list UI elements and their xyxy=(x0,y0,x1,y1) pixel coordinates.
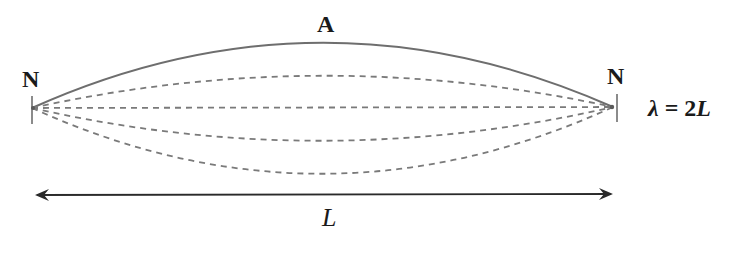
wavelength-formula: λ = 2L xyxy=(648,96,711,120)
lambda-symbol: λ xyxy=(648,95,659,121)
wavelength-variable: L xyxy=(696,95,711,121)
dashed-wave-curve-middle xyxy=(32,107,613,108)
dashed-wave-curve-bottom xyxy=(32,107,613,174)
solid-wave-curve xyxy=(32,43,613,108)
standing-wave-diagram: A N N λ = 2L L xyxy=(0,0,742,255)
left-node-dot xyxy=(31,106,35,110)
wavelength-coefficient: 2 xyxy=(684,95,696,121)
right-node-label: N xyxy=(607,64,624,88)
dashed-wave-curve-lower xyxy=(32,107,613,141)
antinode-label: A xyxy=(317,12,334,36)
left-node-label: N xyxy=(22,67,39,91)
wave-figure xyxy=(0,0,742,255)
length-label: L xyxy=(322,205,336,231)
right-node-dot xyxy=(610,105,614,109)
dashed-wave-curve-upper xyxy=(32,76,613,108)
equals-sign: = xyxy=(665,95,679,121)
length-arrow xyxy=(37,194,611,195)
